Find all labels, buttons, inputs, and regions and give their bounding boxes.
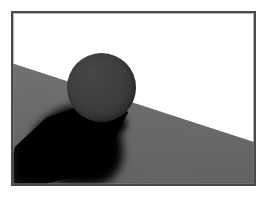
- figure-alt-text: Dark sphere resting on a gray inclined p…: [0, 0, 1, 1]
- scene-viewport: [13, 13, 254, 184]
- image-frame: [11, 11, 256, 186]
- scene-figure: Dark sphere resting on a gray inclined p…: [0, 0, 267, 197]
- sphere: [67, 53, 136, 122]
- sphere-rim-shading: [67, 53, 136, 122]
